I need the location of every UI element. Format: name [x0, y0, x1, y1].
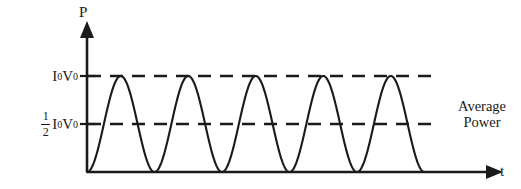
- power-waveform-curve: [87, 76, 425, 172]
- peak-symbol-v: V: [62, 68, 73, 85]
- fraction-numerator: 1: [42, 110, 50, 123]
- half-symbol-v-subscript: 0: [73, 119, 78, 130]
- power-vs-time-figure: P t I0V0 1 2 I0V0 Average Power: [0, 0, 521, 189]
- plot-canvas: [0, 0, 521, 189]
- average-power-annotation: Average Power: [446, 98, 518, 130]
- average-power-line1: Average: [446, 98, 518, 114]
- peak-symbol-v-subscript: 0: [73, 71, 78, 82]
- fraction-denominator: 2: [42, 126, 50, 139]
- average-power-tick-label: 1 2 I0V0: [41, 112, 78, 136]
- peak-power-tick-label: I0V0: [52, 66, 78, 86]
- x-axis-label: t: [500, 164, 504, 179]
- y-axis-label: P: [79, 5, 87, 20]
- average-power-line2: Power: [446, 114, 518, 130]
- y-axis-arrowhead: [80, 21, 94, 38]
- one-half-fraction: 1 2: [41, 110, 50, 138]
- half-symbol-v: V: [62, 116, 73, 133]
